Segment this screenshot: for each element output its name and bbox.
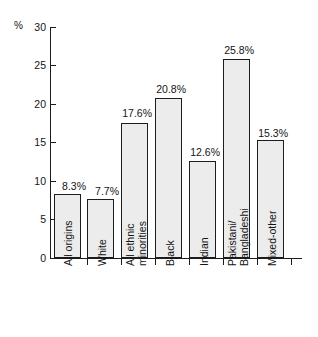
value-label-black: 20.8% (146, 84, 186, 95)
x-category-label-mixed-other: Mixed-other (267, 211, 279, 266)
y-tick-label-15: 15 (24, 137, 46, 148)
x-category-label-line1: Black (164, 240, 176, 266)
bar-black (155, 98, 182, 258)
y-tick-label-10: 10 (24, 176, 46, 187)
x-tick-mark-4 (189, 259, 190, 265)
x-category-label-indian: Indian (199, 237, 211, 266)
x-category-label-line1: All ethnic (124, 223, 136, 266)
y-tick-label-5: 5 (24, 214, 46, 225)
y-axis-unit-label: % (14, 21, 23, 31)
value-label-white: 7.7% (85, 186, 119, 197)
plot-area (50, 27, 302, 258)
x-category-label-white: White (97, 239, 109, 266)
x-category-label-line1: Pakistani/ (226, 220, 238, 266)
x-category-label-line2: Bangladeshi (239, 208, 251, 266)
x-tick-mark-1 (87, 259, 88, 265)
x-category-label-line1: All origins (62, 220, 74, 266)
x-category-label-line1: White (96, 239, 108, 266)
x-tick-mark-2 (121, 259, 122, 265)
x-tick-mark-6 (257, 259, 258, 265)
y-tick-label-20: 20 (24, 99, 46, 110)
x-category-label-all-ethnic-minorities: All ethnic minorities (125, 221, 148, 266)
x-category-label-black: Black (165, 240, 177, 266)
x-tick-mark-5 (223, 259, 224, 265)
y-tick-label-30: 30 (24, 22, 46, 33)
x-tick-mark-7 (291, 259, 292, 265)
value-label-mixed-other: 15.3% (248, 128, 288, 139)
value-label-indian: 12.6% (180, 147, 220, 158)
value-label-all-ethnic-minorities: 17.6% (112, 108, 152, 119)
value-label-pakistani-bangladeshi: 25.8% (214, 45, 254, 56)
x-tick-mark-3 (155, 259, 156, 265)
bar-chart-figure: % 30 25 20 15 10 5 0 8.3% 7.7% 17.6% 20.… (0, 0, 318, 337)
x-category-label-pakistani-bangladeshi: Pakistani/ Bangladeshi (227, 208, 250, 266)
x-category-label-all-origins: All origins (63, 220, 75, 266)
x-category-label-line1: Indian (198, 237, 210, 266)
x-category-label-line2: minorities (137, 221, 149, 266)
x-category-label-line1: Mixed-other (266, 211, 278, 266)
y-tick-label-0: 0 (24, 253, 46, 264)
value-label-all-origins: 8.3% (52, 181, 86, 192)
y-tick-label-25: 25 (24, 60, 46, 71)
